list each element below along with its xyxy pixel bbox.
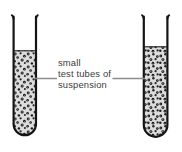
callout-line-2: test tubes of <box>58 68 112 79</box>
right-tube-rim-left <box>142 15 144 18</box>
diagram-canvas: small test tubes of suspension <box>0 0 182 152</box>
callout-line-1: small <box>58 57 112 68</box>
left-tube-rim-right <box>36 15 38 18</box>
callout-line-3: suspension <box>58 79 112 90</box>
left-tube-rim-left <box>12 15 14 18</box>
right-test-tube <box>142 15 170 138</box>
left-test-tube <box>12 15 39 135</box>
callout-label: small test tubes of suspension <box>58 57 112 91</box>
right-tube-rim-right <box>167 15 169 18</box>
right-tube-suspension <box>142 47 170 139</box>
